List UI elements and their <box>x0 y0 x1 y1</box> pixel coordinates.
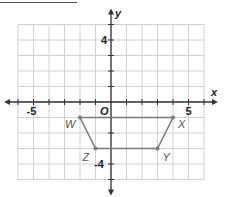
x-axis-label: x <box>210 86 218 98</box>
vertex-label-z: Z <box>82 151 91 163</box>
y-tick-label-neg4: -4 <box>94 158 105 170</box>
vertex-y <box>156 147 160 151</box>
x-axis-arrow-right-icon <box>212 99 218 105</box>
y-axis-label: y <box>114 7 122 19</box>
origin-label: O <box>100 105 109 117</box>
y-axis-arrow-up-icon <box>108 9 114 15</box>
y-axis-arrow-down-icon <box>108 190 114 196</box>
coordinate-plane: -554-4OxyWXYZ <box>0 0 227 197</box>
vertex-label-y: Y <box>163 151 171 163</box>
y-tick-label-4: 4 <box>101 34 108 46</box>
x-tick-label-5: 5 <box>186 105 192 117</box>
vertex-label-x: X <box>177 118 186 130</box>
vertex-label-w: W <box>65 118 77 130</box>
x-axis-arrow-left-icon <box>4 99 10 105</box>
vertex-x <box>171 116 175 120</box>
vertex-w <box>78 116 82 120</box>
x-tick-label-neg5: -5 <box>27 105 37 117</box>
vertex-z <box>94 147 98 151</box>
